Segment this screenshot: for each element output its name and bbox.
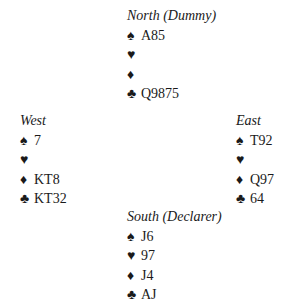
diamond-icon: ♦ (127, 266, 140, 286)
club-icon: ♣ (127, 84, 140, 104)
north-spades-row: ♠A85 (127, 26, 216, 46)
west-hearts-row: ♥ (20, 150, 67, 170)
spade-icon: ♠ (20, 131, 33, 151)
east-hand: East ♠T92 ♥ ♦Q97 ♣64 (236, 111, 274, 209)
club-icon: ♣ (127, 285, 140, 305)
west-hand: West ♠7 ♥ ♦KT8 ♣KT32 (20, 111, 67, 209)
west-label: West (20, 111, 67, 131)
south-clubs-row: ♣AJ (127, 285, 222, 305)
heart-icon: ♥ (20, 150, 33, 170)
west-spades: 7 (34, 133, 41, 148)
west-diamonds-row: ♦KT8 (20, 170, 67, 190)
east-clubs: 64 (250, 191, 264, 206)
south-hearts-row: ♥97 (127, 246, 222, 266)
spade-icon: ♠ (127, 227, 140, 247)
north-hearts-row: ♥ (127, 45, 216, 65)
north-label: North (Dummy) (127, 6, 216, 26)
heart-icon: ♥ (127, 246, 140, 266)
north-clubs: Q9875 (141, 86, 179, 101)
spade-icon: ♠ (236, 131, 249, 151)
east-clubs-row: ♣64 (236, 189, 274, 209)
west-clubs: KT32 (34, 191, 67, 206)
west-clubs-row: ♣KT32 (20, 189, 67, 209)
south-hearts: 97 (141, 248, 155, 263)
east-diamonds-row: ♦Q97 (236, 170, 274, 190)
north-diamonds-row: ♦ (127, 65, 216, 85)
north-hand: North (Dummy) ♠A85 ♥ ♦ ♣Q9875 (127, 6, 216, 104)
east-spades: T92 (250, 133, 273, 148)
south-spades-row: ♠J6 (127, 227, 222, 247)
north-spades: A85 (141, 28, 165, 43)
south-label: South (Declarer) (127, 207, 222, 227)
heart-icon: ♥ (127, 45, 140, 65)
east-hearts-row: ♥ (236, 150, 274, 170)
east-diamonds: Q97 (250, 172, 274, 187)
west-spades-row: ♠7 (20, 131, 67, 151)
south-clubs: AJ (141, 287, 157, 302)
diamond-icon: ♦ (236, 170, 249, 190)
south-diamonds-row: ♦J4 (127, 266, 222, 286)
north-clubs-row: ♣Q9875 (127, 84, 216, 104)
south-hand: South (Declarer) ♠J6 ♥97 ♦J4 ♣AJ (127, 207, 222, 305)
east-label: East (236, 111, 274, 131)
diamond-icon: ♦ (127, 65, 140, 85)
club-icon: ♣ (236, 189, 249, 209)
east-spades-row: ♠T92 (236, 131, 274, 151)
west-diamonds: KT8 (34, 172, 60, 187)
diamond-icon: ♦ (20, 170, 33, 190)
south-spades: J6 (141, 229, 153, 244)
spade-icon: ♠ (127, 26, 140, 46)
heart-icon: ♥ (236, 150, 249, 170)
south-diamonds: J4 (141, 268, 153, 283)
club-icon: ♣ (20, 189, 33, 209)
